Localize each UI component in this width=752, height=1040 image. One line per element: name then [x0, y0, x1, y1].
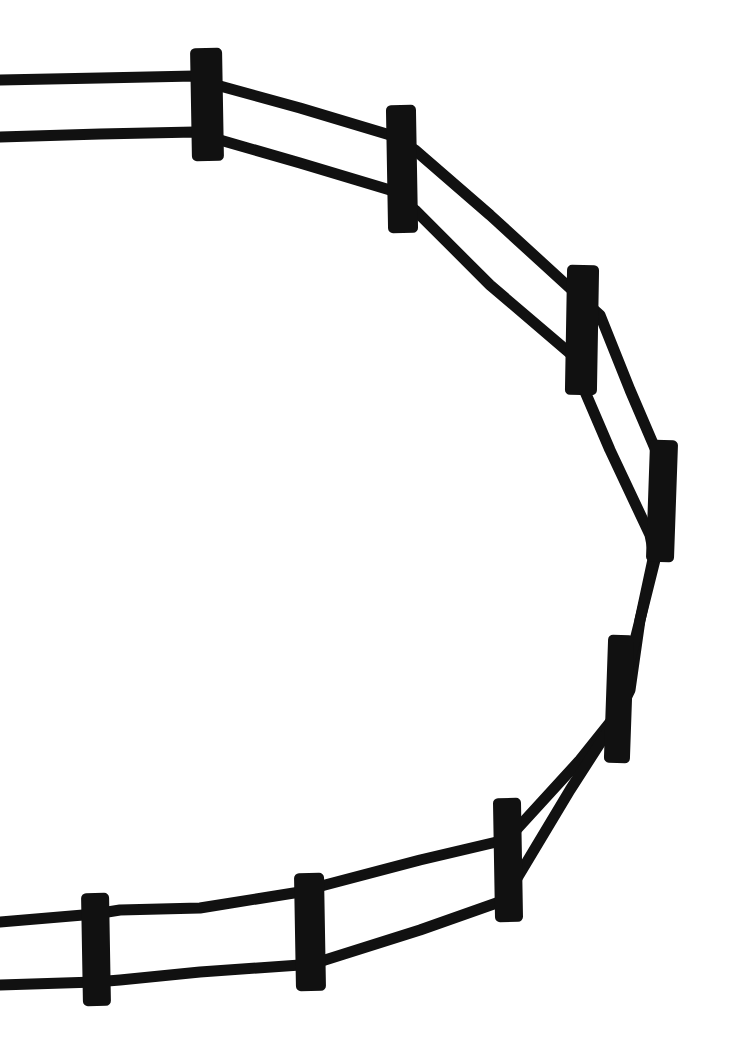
fence-post-5 [604, 635, 634, 764]
fence-post-7 [294, 873, 326, 992]
fence-post-3 [565, 265, 599, 396]
fence-post-1 [190, 48, 224, 162]
fence-post-6 [493, 798, 523, 922]
fence-post-8 [81, 893, 111, 1006]
fence-drawing [0, 0, 752, 1040]
fence-post-2 [386, 105, 418, 234]
fence-post-4 [646, 440, 678, 563]
